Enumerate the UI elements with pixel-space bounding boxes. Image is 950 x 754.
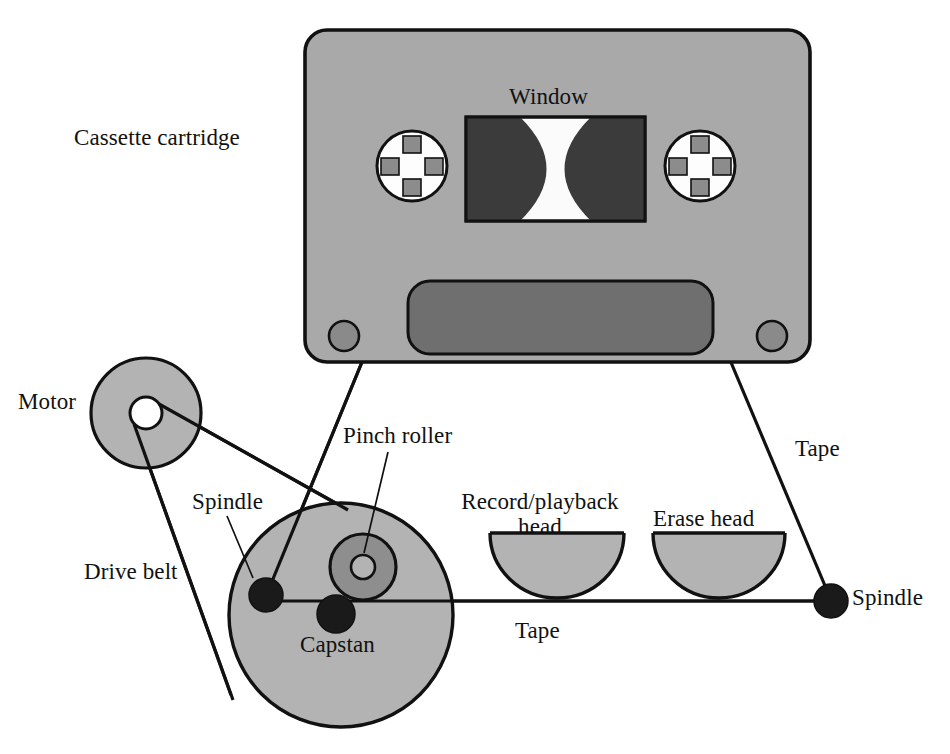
hub-right-tooth-top [691, 136, 709, 153]
label-pinch-roller: Pinch roller [343, 424, 452, 449]
hub-right-tooth-bottom [691, 179, 709, 196]
cassette-cartridge [305, 30, 810, 362]
label-erase-head: Erase head [653, 507, 754, 532]
cassette-label-panel [408, 281, 713, 354]
label-record-playback-head: Record/playback head [451, 490, 629, 540]
hub-left-tooth-left [381, 158, 399, 175]
hub-left [377, 131, 447, 201]
label-cassette-cartridge: Cassette cartridge [74, 126, 240, 151]
hub-right [665, 131, 735, 201]
label-spindle-left: Spindle [192, 490, 263, 515]
label-motor: Motor [18, 390, 76, 415]
pinch-roller [330, 534, 396, 600]
motor-pulley [91, 358, 201, 468]
hub-left-tooth-bottom [403, 179, 421, 196]
hub-left-tooth-right [425, 158, 443, 175]
label-tape-right: Tape [795, 437, 840, 462]
hub-right-tooth-left [669, 158, 687, 175]
cassette-corner-hole-left [329, 321, 359, 351]
label-window: Window [509, 85, 588, 110]
spindle-left-post [249, 578, 283, 612]
label-drive-belt: Drive belt [84, 560, 178, 585]
label-capstan: Capstan [300, 633, 375, 658]
pinch-roller-bore [351, 555, 375, 579]
capstan-shaft [317, 595, 355, 633]
hub-right-tooth-right [713, 158, 731, 175]
label-spindle-right: Spindle [852, 586, 923, 611]
hub-left-tooth-top [403, 136, 421, 153]
cassette-corner-hole-right [757, 321, 787, 351]
diagram-canvas [0, 0, 950, 754]
label-tape-bottom: Tape [515, 619, 560, 644]
cassette-transport-diagram: Cassette cartridge Window Motor Pinch ro… [0, 0, 950, 754]
spindle-right-post [814, 584, 848, 618]
